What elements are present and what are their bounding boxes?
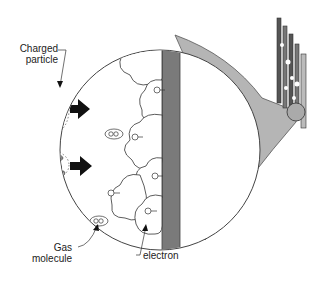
label-gas-molecule-line1: Gas xyxy=(28,242,72,253)
label-charged-particle-line2: particle xyxy=(14,54,58,65)
charged-particle-upper xyxy=(35,86,69,134)
label-gas-molecule-line2: molecule xyxy=(28,253,72,264)
electrode-wall xyxy=(162,20,180,260)
label-electron-text: electron xyxy=(143,250,179,261)
label-charged-particle-line1: Charged xyxy=(14,43,58,54)
charged-particle-lower xyxy=(35,151,69,179)
label-gas-molecule: Gas molecule xyxy=(28,242,72,264)
label-electron: electron xyxy=(143,250,179,261)
label-charged-particle: Charged particle xyxy=(14,43,58,65)
